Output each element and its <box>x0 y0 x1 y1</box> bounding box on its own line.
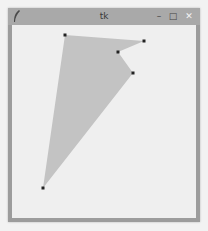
vertex-handle[interactable] <box>132 72 135 75</box>
close-button[interactable]: ✕ <box>182 10 196 22</box>
drawing-canvas[interactable] <box>12 25 196 218</box>
vertex-handle[interactable] <box>143 40 146 43</box>
title-bar[interactable]: tk – □ ✕ <box>8 8 200 25</box>
maximize-button[interactable]: □ <box>166 10 180 22</box>
app-window: tk – □ ✕ <box>8 8 200 222</box>
minimize-button[interactable]: – <box>152 10 166 22</box>
vertex-handle[interactable] <box>42 187 45 190</box>
vertex-handle[interactable] <box>64 34 67 37</box>
polygon-shape <box>43 35 144 188</box>
polygon-drawing <box>12 25 196 218</box>
vertex-handle[interactable] <box>117 51 120 54</box>
